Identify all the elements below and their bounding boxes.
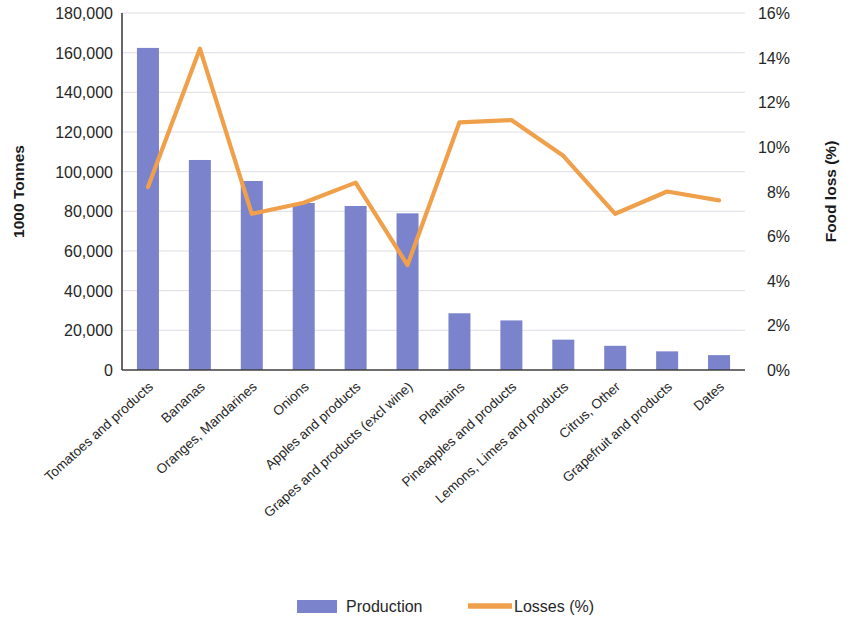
y-tick-label-right: 14%	[758, 50, 790, 67]
bar-3	[293, 203, 315, 370]
bar-8	[552, 340, 574, 370]
legend-label-losses: Losses (%)	[514, 598, 594, 615]
x-category-label-6: Plantains	[416, 379, 467, 427]
y-tick-label-left: 120,000	[55, 124, 113, 141]
chart-container: 020,00040,00060,00080,000100,000120,0001…	[0, 0, 852, 627]
losses-line	[148, 49, 719, 265]
bar-9	[604, 346, 626, 370]
y-axis-left-title: 1000 Tonnes	[10, 145, 27, 238]
bar-series	[137, 48, 730, 370]
x-category-label-2: Oranges, Mandarines	[153, 379, 260, 477]
y-tick-label-right: 0%	[767, 362, 790, 379]
gridlines	[122, 13, 745, 330]
y-tick-label-right: 12%	[758, 94, 790, 111]
y-tick-label-left: 60,000	[64, 243, 113, 260]
x-category-label-11: Dates	[691, 379, 727, 414]
y-tick-label-right: 8%	[767, 184, 790, 201]
y-tick-label-left: 20,000	[64, 322, 113, 339]
y-tick-label-right: 6%	[767, 228, 790, 245]
y-axis-left-ticks: 020,00040,00060,00080,000100,000120,0001…	[55, 5, 113, 379]
x-category-label-3: Onions	[270, 379, 312, 419]
y-tick-label-left: 0	[104, 362, 113, 379]
y-tick-label-right: 10%	[758, 139, 790, 156]
x-category-label-0: Tomatoes and products	[42, 379, 157, 484]
bar-11	[708, 355, 730, 370]
bar-4	[345, 206, 367, 370]
bar-6	[448, 313, 470, 370]
x-category-label-1: Bananas	[158, 379, 208, 426]
y-tick-label-right: 2%	[767, 317, 790, 334]
y-tick-label-left: 140,000	[55, 84, 113, 101]
x-category-label-4: Apples and products	[262, 379, 364, 473]
y-axis-right-ticks: 0%2%4%6%8%10%12%14%16%	[758, 5, 790, 379]
y-tick-label-left: 180,000	[55, 5, 113, 22]
bar-1	[189, 160, 211, 370]
bar-0	[137, 48, 159, 370]
legend-label-production: Production	[346, 598, 423, 615]
y-tick-label-right: 4%	[767, 273, 790, 290]
legend-swatch-production	[297, 600, 337, 613]
bar-5	[397, 213, 419, 370]
y-axis-right-title: Food loss (%)	[822, 141, 839, 243]
bar-10	[656, 351, 678, 370]
bar-7	[500, 320, 522, 370]
x-axis-category-labels: Tomatoes and productsBananasOranges, Man…	[42, 379, 728, 521]
y-tick-label-left: 40,000	[64, 283, 113, 300]
y-tick-label-left: 80,000	[64, 203, 113, 220]
y-tick-label-right: 16%	[758, 5, 790, 22]
y-tick-label-left: 160,000	[55, 45, 113, 62]
combo-chart: 020,00040,00060,00080,000100,000120,0001…	[0, 0, 852, 627]
y-tick-label-left: 100,000	[55, 164, 113, 181]
chart-legend: ProductionLosses (%)	[297, 598, 594, 615]
